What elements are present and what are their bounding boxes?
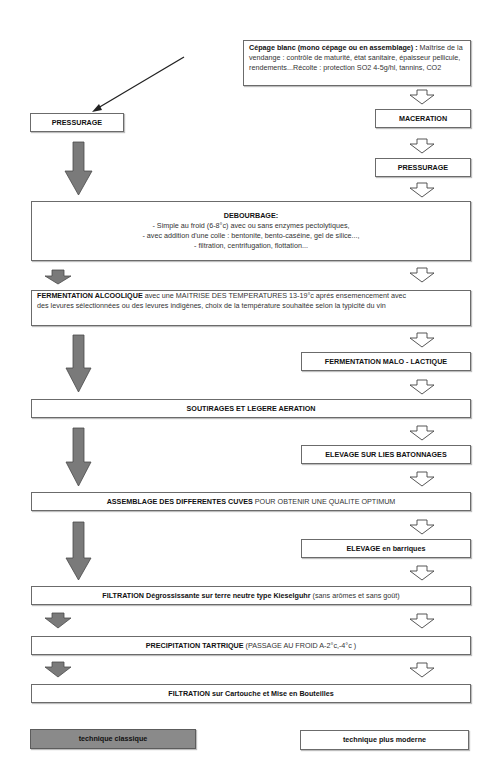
white-arrow-icon bbox=[410, 614, 434, 628]
white-arrow-icon bbox=[410, 380, 434, 394]
white-arrow-icon bbox=[410, 333, 434, 347]
white-arrow-icon bbox=[410, 90, 434, 104]
white-arrow-icon bbox=[410, 139, 434, 153]
white-arrow-icon bbox=[410, 663, 434, 677]
white-arrow-icon bbox=[410, 268, 434, 282]
modern-arrows bbox=[0, 0, 493, 783]
white-arrow-icon bbox=[410, 426, 434, 440]
white-arrow-icon bbox=[410, 520, 434, 534]
white-arrow-icon bbox=[410, 472, 434, 486]
white-arrow-icon bbox=[410, 566, 434, 580]
white-arrow-icon bbox=[410, 183, 434, 197]
